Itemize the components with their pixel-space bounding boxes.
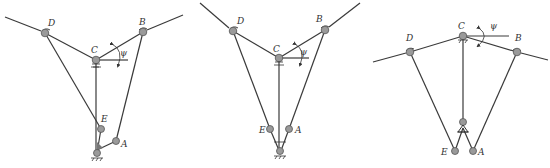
- link-left-arm: [200, 3, 229, 28]
- label-B: B: [138, 17, 146, 27]
- joint-A: [113, 138, 120, 145]
- joint-ground: [277, 148, 284, 155]
- link-right-arm: [329, 3, 360, 27]
- label-A: A: [294, 125, 302, 135]
- angle-psi-arrow: [112, 44, 120, 66]
- label-E: E: [440, 147, 448, 157]
- link-right-arm: [147, 15, 183, 30]
- panel-2: D B C ψ E A: [200, 3, 360, 159]
- label-psi: ψ: [300, 47, 308, 57]
- label-B: B: [315, 14, 323, 24]
- link-BA: [473, 52, 517, 151]
- panel-3: D B C ψ E A: [373, 21, 548, 157]
- joint-B: [321, 26, 329, 34]
- label-B: B: [514, 33, 522, 43]
- label-psi: ψ: [120, 48, 128, 58]
- label-psi: ψ: [490, 21, 498, 31]
- joint-C: [459, 32, 467, 40]
- label-C: C: [458, 21, 465, 31]
- angle-psi-arrow: [478, 28, 484, 46]
- label-D: D: [405, 33, 413, 43]
- label-D: D: [236, 16, 244, 26]
- link-DE: [233, 31, 270, 129]
- joint-B: [513, 48, 521, 56]
- link-right-arm: [521, 53, 548, 60]
- joint-E: [98, 126, 105, 133]
- link-DC: [410, 36, 463, 52]
- label-E: E: [100, 114, 108, 124]
- panel-1: D B C ψ E A: [5, 15, 183, 161]
- link-left-arm: [5, 17, 41, 31]
- ground-support: [91, 158, 103, 161]
- joint-D: [406, 48, 414, 56]
- label-C: C: [91, 45, 98, 55]
- label-E: E: [258, 125, 266, 135]
- label-C: C: [273, 44, 280, 54]
- joint-A: [470, 148, 477, 155]
- label-A: A: [477, 147, 485, 157]
- joint-C: [92, 56, 100, 64]
- link-DE: [410, 52, 455, 151]
- link-BA: [289, 30, 325, 129]
- crank-triangle: [97, 142, 103, 150]
- link-CB: [463, 36, 517, 52]
- joint-ground: [94, 150, 101, 157]
- joint-D: [229, 27, 237, 35]
- joint-A: [286, 126, 293, 133]
- joint-E: [267, 126, 274, 133]
- link-left-arm: [373, 53, 406, 62]
- linkage-diagram: D B C ψ E A D B C ψ E A: [0, 0, 550, 168]
- joint-E: [452, 148, 459, 155]
- label-D: D: [47, 18, 55, 28]
- joint-D: [41, 29, 49, 37]
- joint-C: [275, 54, 283, 62]
- joint-B: [139, 28, 147, 36]
- label-A: A: [120, 139, 128, 149]
- ground-support: [274, 156, 286, 159]
